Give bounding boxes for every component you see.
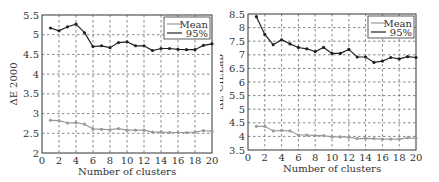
data-point-marker <box>263 33 266 36</box>
chart-left-canvas: 0246810121416182022.533.544.555.5Number … <box>0 0 220 182</box>
data-point-marker <box>168 131 171 134</box>
data-point-marker <box>142 44 145 47</box>
data-point-marker <box>322 46 325 49</box>
y-tick-label: 7 <box>239 49 245 60</box>
data-point-marker <box>83 123 86 126</box>
x-tick-label: 0 <box>245 152 251 163</box>
x-tick-label: 8 <box>107 155 113 166</box>
y-tick-label: 4 <box>33 69 39 80</box>
x-tick-label: 14 <box>359 152 372 163</box>
y-axis-label: ΔE 2000 <box>8 62 19 105</box>
data-point-marker <box>83 31 86 34</box>
data-point-marker <box>49 119 52 122</box>
x-tick-label: 2 <box>262 152 268 163</box>
data-point-marker <box>381 138 384 141</box>
y-tick-label: 2.5 <box>23 128 39 139</box>
data-point-marker <box>381 59 384 62</box>
data-point-marker <box>372 61 375 64</box>
data-point-marker <box>125 40 128 43</box>
y-tick-label: 4 <box>239 131 245 142</box>
data-point-marker <box>356 55 359 58</box>
data-point-marker <box>49 26 52 29</box>
x-tick-label: 16 <box>376 152 389 163</box>
data-point-marker <box>210 42 213 45</box>
data-point-marker <box>255 125 258 128</box>
data-point-marker <box>322 134 325 137</box>
data-point-marker <box>314 134 317 137</box>
x-tick-label: 6 <box>295 152 301 163</box>
data-point-marker <box>372 137 375 140</box>
x-axis-label: Number of clusters <box>78 166 176 177</box>
data-point-marker <box>91 127 94 130</box>
data-point-marker <box>142 129 145 132</box>
x-tick-label: 6 <box>90 155 96 166</box>
data-point-marker <box>66 25 69 28</box>
series-mean <box>49 119 214 134</box>
data-point-marker <box>339 135 342 138</box>
y-tick-label: 5 <box>239 104 245 115</box>
data-point-marker <box>280 38 283 41</box>
data-point-marker <box>134 129 137 132</box>
legend-label: 95% <box>186 28 208 39</box>
data-point-marker <box>305 47 308 50</box>
data-point-marker <box>398 57 401 60</box>
chart-delta-e-cielab: 024681012141618203.544.555.566.577.588.5… <box>220 0 439 182</box>
chart-right-canvas: 024681012141618203.544.555.566.577.588.5… <box>220 0 439 182</box>
legend-label: 95% <box>390 27 412 38</box>
x-tick-label: 0 <box>39 155 45 166</box>
data-point-marker <box>272 129 275 132</box>
data-point-marker <box>339 52 342 55</box>
data-point-marker <box>159 131 162 134</box>
data-point-marker <box>185 48 188 51</box>
data-point-marker <box>159 47 162 50</box>
data-point-marker <box>202 44 205 47</box>
x-tick-label: 14 <box>155 155 168 166</box>
legend: Mean95% <box>164 17 210 39</box>
y-tick-label: 5 <box>33 29 39 40</box>
data-point-marker <box>108 46 111 49</box>
data-point-marker <box>347 48 350 51</box>
data-point-marker <box>185 131 188 134</box>
data-point-marker <box>168 47 171 50</box>
data-point-marker <box>347 136 350 139</box>
data-point-marker <box>414 137 417 140</box>
y-tick-label: 6 <box>239 77 245 88</box>
legend: Mean95% <box>368 16 414 38</box>
data-point-marker <box>57 29 60 32</box>
data-point-marker <box>57 119 60 122</box>
data-point-marker <box>100 44 103 47</box>
x-tick-label: 4 <box>73 155 79 166</box>
x-tick-label: 20 <box>206 155 219 166</box>
x-tick-label: 10 <box>121 155 134 166</box>
series-line <box>256 126 416 139</box>
data-point-marker <box>74 121 77 124</box>
data-point-marker <box>176 131 179 134</box>
y-tick-label: 7.5 <box>229 36 245 47</box>
data-point-marker <box>406 136 409 139</box>
data-point-marker <box>389 56 392 59</box>
x-tick-label: 12 <box>342 152 355 163</box>
data-point-marker <box>151 131 154 134</box>
data-point-marker <box>210 130 213 133</box>
x-tick-label: 16 <box>172 155 185 166</box>
y-tick-label: 6.5 <box>229 63 245 74</box>
data-point-marker <box>330 135 333 138</box>
data-point-marker <box>305 133 308 136</box>
data-point-marker <box>297 46 300 49</box>
data-point-marker <box>202 129 205 132</box>
data-point-marker <box>117 41 120 44</box>
data-point-marker <box>330 52 333 55</box>
data-point-marker <box>314 50 317 53</box>
y-tick-label: 3.5 <box>229 145 245 156</box>
x-tick-label: 12 <box>138 155 151 166</box>
data-point-marker <box>398 138 401 141</box>
x-axis-label: Number of clusters <box>283 163 381 174</box>
data-point-marker <box>389 138 392 141</box>
x-tick-label: 20 <box>410 152 423 163</box>
data-point-marker <box>193 131 196 134</box>
data-point-marker <box>108 128 111 131</box>
data-point-marker <box>414 56 417 59</box>
y-axis-label: ΔE CIELab <box>220 54 225 110</box>
y-tick-label: 8 <box>239 22 245 33</box>
data-point-marker <box>297 133 300 136</box>
